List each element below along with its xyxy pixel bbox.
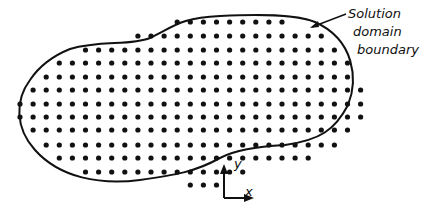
- grid-point: [109, 127, 114, 132]
- grid-point: [70, 74, 75, 79]
- grid-point: [162, 114, 167, 119]
- grid-point: [17, 101, 22, 106]
- grid-point: [135, 87, 140, 92]
- grid-point: [96, 101, 101, 106]
- grid-point: [227, 47, 232, 52]
- grid-point: [122, 47, 127, 52]
- grid-point: [214, 169, 219, 174]
- grid-point: [175, 19, 180, 24]
- grid-point: [227, 101, 232, 106]
- grid-point: [266, 87, 271, 92]
- grid-point: [188, 47, 193, 52]
- grid-point: [162, 33, 167, 38]
- grid-point: [266, 127, 271, 132]
- grid-point: [83, 114, 88, 119]
- grid-point: [214, 101, 219, 106]
- grid-point: [319, 101, 324, 106]
- grid-point: [253, 155, 258, 160]
- grid-point: [109, 87, 114, 92]
- grid-point: [162, 101, 167, 106]
- grid-point: [109, 114, 114, 119]
- grid-point: [214, 19, 219, 24]
- grid-point: [188, 155, 193, 160]
- grid-point: [135, 127, 140, 132]
- grid-point: [188, 87, 193, 92]
- grid-point: [175, 47, 180, 52]
- grid-point: [240, 19, 245, 24]
- grid-point: [44, 114, 49, 119]
- grid-point: [148, 114, 153, 119]
- grid-point: [175, 60, 180, 65]
- grid-point: [30, 114, 35, 119]
- grid-point: [253, 47, 258, 52]
- grid-point: [109, 74, 114, 79]
- grid-point: [279, 19, 284, 24]
- grid-point: [17, 114, 22, 119]
- grid-point: [240, 114, 245, 119]
- grid-point: [162, 74, 167, 79]
- grid-point: [148, 33, 153, 38]
- grid-point: [148, 142, 153, 147]
- grid-point: [122, 127, 127, 132]
- grid-point: [188, 114, 193, 119]
- grid-point: [135, 169, 140, 174]
- grid-point: [96, 60, 101, 65]
- grid-point: [306, 127, 311, 132]
- grid-point: [319, 87, 324, 92]
- grid-point: [201, 19, 206, 24]
- x-axis-label: x: [245, 184, 253, 199]
- grid-point: [175, 169, 180, 174]
- grid-point: [266, 101, 271, 106]
- grid-point: [279, 74, 284, 79]
- grid-point: [319, 60, 324, 65]
- grid-point: [109, 142, 114, 147]
- grid-point: [83, 127, 88, 132]
- grid-point: [253, 127, 258, 132]
- grid-point: [148, 74, 153, 79]
- grid-point: [162, 169, 167, 174]
- grid-point: [122, 114, 127, 119]
- grid-point: [30, 127, 35, 132]
- grid-point: [175, 155, 180, 160]
- grid-point: [44, 101, 49, 106]
- grid-point: [306, 74, 311, 79]
- grid-point: [57, 101, 62, 106]
- grid-point: [175, 101, 180, 106]
- grid-point: [162, 60, 167, 65]
- grid-point: [319, 127, 324, 132]
- grid-point: [83, 60, 88, 65]
- grid-point: [135, 60, 140, 65]
- grid-point: [345, 114, 350, 119]
- grid-point: [201, 127, 206, 132]
- grid-point: [188, 182, 193, 187]
- grid-point: [201, 169, 206, 174]
- grid-point: [96, 74, 101, 79]
- grid-point: [266, 74, 271, 79]
- grid-point: [148, 127, 153, 132]
- grid-point: [214, 60, 219, 65]
- boundary-label-line3: boundary: [357, 41, 419, 59]
- grid-point: [83, 155, 88, 160]
- grid-point: [319, 74, 324, 79]
- grid-point: [240, 60, 245, 65]
- grid-point: [306, 155, 311, 160]
- grid-point: [122, 155, 127, 160]
- grid-point: [253, 60, 258, 65]
- grid-point: [135, 142, 140, 147]
- grid-point: [240, 47, 245, 52]
- grid-point: [109, 155, 114, 160]
- grid-point: [201, 114, 206, 119]
- grid-point: [279, 33, 284, 38]
- grid-point: [175, 87, 180, 92]
- grid-point: [227, 127, 232, 132]
- grid-point: [175, 33, 180, 38]
- grid-point: [306, 87, 311, 92]
- grid-point: [188, 33, 193, 38]
- grid-point: [148, 101, 153, 106]
- grid-point: [122, 87, 127, 92]
- grid-point: [240, 101, 245, 106]
- grid-point: [293, 101, 298, 106]
- grid-point: [266, 155, 271, 160]
- grid-point: [70, 60, 75, 65]
- grid-point: [175, 142, 180, 147]
